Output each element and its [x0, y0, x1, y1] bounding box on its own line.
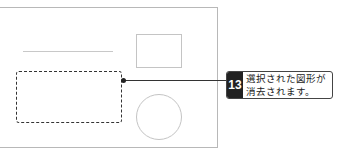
circle-shape[interactable]	[136, 94, 182, 140]
callout-text: 選択された図形が 消去されます。	[243, 72, 332, 98]
step-number-badge: 13	[227, 72, 243, 98]
callout-line-2: 消去されます。	[246, 86, 329, 99]
line-shape[interactable]	[23, 51, 113, 52]
callout-connector-line	[123, 80, 227, 81]
selected-rectangle-shape[interactable]	[16, 71, 122, 123]
step-callout: 13 選択された図形が 消去されます。	[226, 71, 333, 99]
callout-line-1: 選択された図形が	[246, 73, 329, 86]
small-rectangle-shape[interactable]	[136, 34, 182, 68]
drawing-canvas[interactable]	[0, 7, 218, 148]
callout-connector-dot	[121, 78, 126, 83]
